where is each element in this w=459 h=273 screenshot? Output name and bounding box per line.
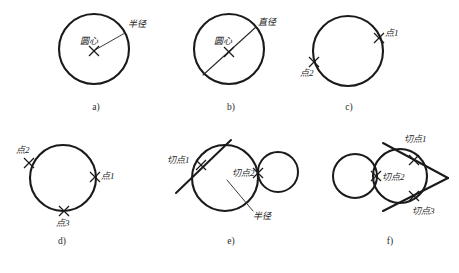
panel-e: 切点1切点2半径e) xyxy=(167,140,298,247)
panel-e-tangent-point-1-label: 切点1 xyxy=(167,155,190,165)
panel-e-tangent-line xyxy=(176,140,231,193)
panel-c: 点1点2c) xyxy=(300,16,399,113)
panel-f-caption: f) xyxy=(387,236,393,247)
panel-f-tangent-point-3-label: 切点3 xyxy=(412,206,435,216)
panel-d-point-1-label: 点1 xyxy=(101,171,115,181)
panel-e-radius-label: 半径 xyxy=(253,211,272,221)
panel-c-point-2-label: 点2 xyxy=(300,68,314,78)
figure-root: 圆心半径a)圆心直径b)点1点2c)点1点2点3d)切点1切点2半径e)切点1切… xyxy=(16,14,448,247)
panel-d: 点1点2点3d) xyxy=(16,145,115,247)
panel-c-point-1-label: 点1 xyxy=(385,28,399,38)
panel-b-caption: b) xyxy=(227,102,235,113)
panel-a-main-circle xyxy=(59,14,129,84)
panel-d-main-circle xyxy=(30,145,96,211)
panel-d-point-2-label: 点2 xyxy=(16,145,30,155)
panel-d-point-3-label: 点3 xyxy=(56,218,70,228)
circle-diagram-figure: 圆心半径a)圆心直径b)点1点2c)点1点2点3d)切点1切点2半径e)切点1切… xyxy=(0,0,459,273)
panel-b: 圆心直径b) xyxy=(194,14,277,113)
panel-c-main-circle xyxy=(313,16,383,86)
panel-a-center-mark xyxy=(89,46,99,56)
panel-a-caption: a) xyxy=(92,102,99,113)
panel-b-diameter-label: 直径 xyxy=(258,17,277,27)
panel-a-radius-line xyxy=(95,33,125,50)
panel-f-small-circle xyxy=(333,154,377,198)
panel-b-center-mark xyxy=(224,47,234,57)
panel-e-tangent-point-2-label: 切点2 xyxy=(232,168,255,178)
panel-d-caption: d) xyxy=(58,236,66,247)
panel-a-center-label: 圆心 xyxy=(80,36,99,46)
panel-e-small-circle xyxy=(258,152,298,192)
panel-f-tangent-point-1-label: 切点1 xyxy=(404,134,427,144)
diagram-page: 圆心半径a)圆心直径b)点1点2c)点1点2点3d)切点1切点2半径e)切点1切… xyxy=(0,0,459,273)
panel-a: 圆心半径a) xyxy=(59,14,147,113)
panel-e-caption: e) xyxy=(227,236,234,247)
panel-e-main-circle xyxy=(192,145,258,211)
panel-f: 切点1切点2切点3f) xyxy=(333,134,448,247)
panel-b-center-label: 圆心 xyxy=(214,36,233,46)
panel-a-radius-label: 半径 xyxy=(128,19,147,29)
panel-f-tangent-point-2-label: 切点2 xyxy=(382,172,405,182)
panel-c-caption: c) xyxy=(345,102,352,113)
panel-f-tangent-point-1-mark xyxy=(409,155,419,165)
